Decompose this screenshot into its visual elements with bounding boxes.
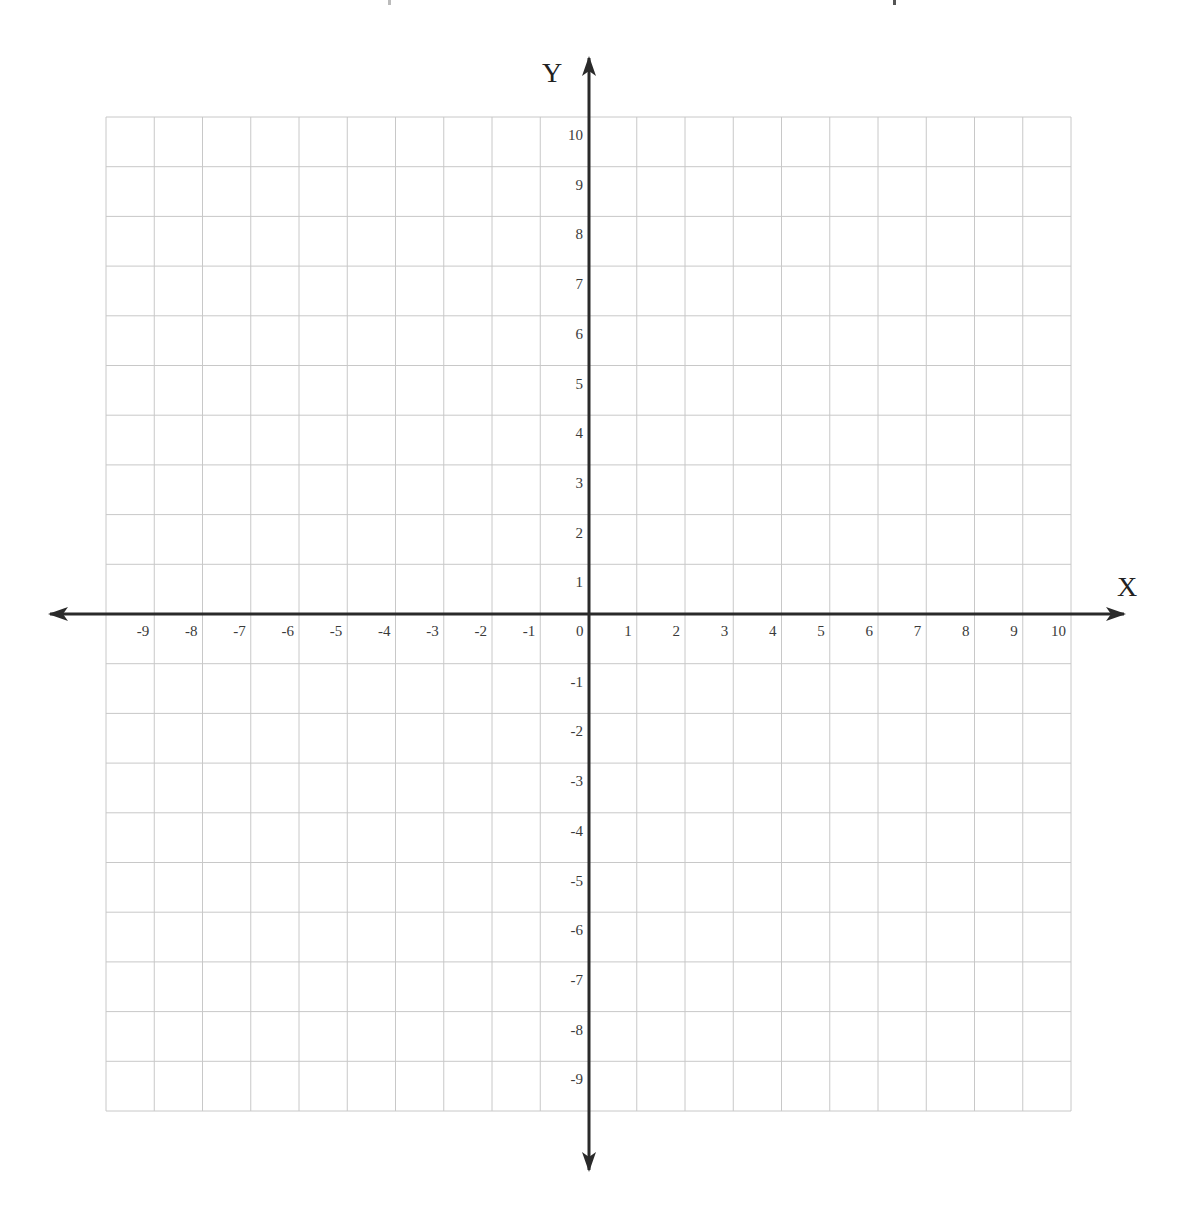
x-tick-label: 0: [576, 623, 584, 639]
y-tick-label: -8: [571, 1022, 584, 1038]
y-tick-label: -3: [571, 773, 584, 789]
x-tick-label: -3: [426, 623, 439, 639]
x-tick-label: 10: [1051, 623, 1066, 639]
x-tick-label: -4: [378, 623, 391, 639]
x-axis-title: X: [1117, 571, 1137, 602]
y-tick-label: 10: [568, 127, 583, 143]
x-tick-label: -2: [475, 623, 488, 639]
y-tick-label: 9: [576, 177, 584, 193]
y-tick-label: -2: [571, 723, 584, 739]
x-tick-label: -8: [185, 623, 198, 639]
x-tick-label: 7: [914, 623, 922, 639]
x-tick-label: -9: [137, 623, 150, 639]
y-tick-label: -4: [571, 823, 584, 839]
y-tick-label: 5: [576, 376, 584, 392]
y-tick-label: 6: [576, 326, 584, 342]
y-tick-label: -5: [571, 873, 584, 889]
y-tick-label: 8: [576, 226, 584, 242]
y-tick-label: -1: [571, 674, 584, 690]
x-tick-label: 6: [866, 623, 874, 639]
coordinate-plane: -9-8-7-6-5-4-3-2-10123456789101098765432…: [0, 0, 1186, 1224]
x-tick-label: 2: [673, 623, 681, 639]
x-tick-label: 8: [962, 623, 970, 639]
y-tick-label: -6: [571, 922, 584, 938]
x-tick-label: 4: [769, 623, 777, 639]
y-tick-label: 7: [576, 276, 584, 292]
x-tick-label: 3: [721, 623, 729, 639]
x-tick-label: 9: [1010, 623, 1018, 639]
x-tick-label: 1: [624, 623, 632, 639]
y-tick-label: 4: [576, 425, 584, 441]
x-tick-label: -1: [523, 623, 536, 639]
y-tick-label: 3: [576, 475, 584, 491]
y-tick-label: -9: [571, 1071, 584, 1087]
y-tick-label: -7: [571, 972, 584, 988]
x-tick-label: 5: [817, 623, 825, 639]
y-tick-label: 1: [576, 574, 584, 590]
x-tick-label: -6: [282, 623, 295, 639]
y-axis-title: Y: [542, 57, 562, 88]
x-tick-label: -7: [233, 623, 246, 639]
y-tick-label: 2: [576, 525, 584, 541]
axes: [50, 58, 1124, 1170]
x-tick-label: -5: [330, 623, 343, 639]
